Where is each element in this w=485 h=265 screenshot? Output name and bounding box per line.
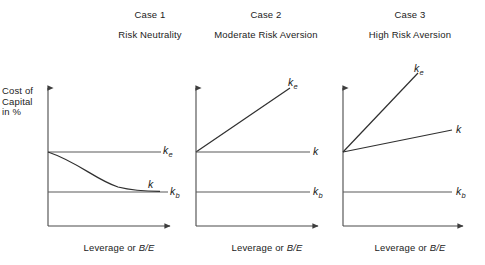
case-1-kb-label-text: k [170,185,175,197]
case-3-k-line [343,130,452,152]
case-2-plot [196,88,318,226]
case-2-ke-label-text: k [288,76,293,88]
case-3-plot [343,73,463,226]
case-1-k-label: k [148,178,153,190]
case-1-k-curve [48,152,160,191]
case-3-k-label-text: k [456,123,461,135]
case-3-kb-label-text: k [456,185,461,197]
case-2-kb-label: kb [313,185,322,197]
case-3-kb-label-sub: b [462,191,466,200]
case-1-kb-label-sub: b [176,191,180,200]
case-2-ke-label: ke [288,76,297,88]
case-1-ke-label-text: k [163,144,168,156]
case-3-k-label: k [456,123,461,135]
case-3-ke-label: ke [414,62,423,74]
case-1-k-label-text: k [148,178,153,190]
case-1-x-axis-label-plain: Leverage or [84,242,139,253]
case-3-x-axis-label-plain: Leverage or [375,242,430,253]
case-2-x-axis-label-italic: B/E [287,242,303,253]
case-1-kb-label: kb [170,185,179,197]
case-1-ke-label-sub: e [169,150,173,159]
case-2-ke-line [196,88,290,152]
case-1-plot [48,88,170,226]
case-3-ke-label-sub: e [420,68,424,77]
case-2-x-axis-label-plain: Leverage or [232,242,287,253]
case-3-ke-label-text: k [414,62,419,74]
case-2-kb-label-sub: b [319,191,323,200]
case-3-x-axis-label: Leverage or B/E [330,242,485,253]
case-1-x-axis-label: Leverage or B/E [39,242,199,253]
case-3-kb-label: kb [456,185,465,197]
case-2-ke-label-sub: e [294,82,298,91]
case-3-ke-line [343,73,418,152]
case-2-kb-label-text: k [313,185,318,197]
case-1-ke-label: ke [163,144,172,156]
plot-drawing-layer [0,0,485,265]
figure-cost-of-capital-vs-leverage: Case 1 Risk Neutrality Case 2 Moderate R… [0,0,485,265]
case-2-k-label-text: k [313,145,318,157]
case-2-k-label: k [313,145,318,157]
case-2-x-axis-label: Leverage or B/E [187,242,347,253]
case-1-x-axis-label-italic: B/E [139,242,155,253]
case-3-x-axis-label-italic: B/E [430,242,446,253]
